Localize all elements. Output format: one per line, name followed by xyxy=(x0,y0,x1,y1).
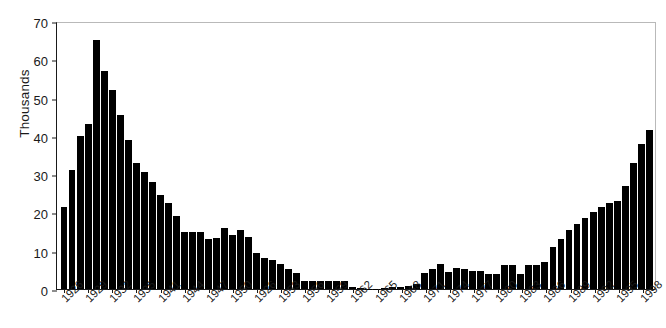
bar xyxy=(181,232,188,289)
bar xyxy=(598,207,605,289)
bar xyxy=(93,40,100,289)
y-tick-mark xyxy=(52,176,57,177)
bar-series xyxy=(57,23,655,289)
y-axis-title: Thousands xyxy=(17,24,32,184)
bar xyxy=(133,163,140,289)
y-tick-mark xyxy=(52,61,57,62)
bar xyxy=(277,264,284,289)
bar xyxy=(229,235,236,289)
bar xyxy=(85,124,92,289)
bar xyxy=(77,136,84,289)
y-tick-mark xyxy=(52,214,57,215)
plot-area: 010203040506070 xyxy=(56,22,656,290)
y-tick-mark xyxy=(52,23,57,24)
bar xyxy=(590,212,597,289)
bar xyxy=(141,172,148,289)
y-tick-mark xyxy=(52,291,57,292)
bar xyxy=(646,130,653,289)
bar xyxy=(61,207,68,289)
bar xyxy=(566,230,573,289)
bar xyxy=(622,186,629,289)
bar xyxy=(574,224,581,289)
bar xyxy=(630,163,637,289)
bar xyxy=(638,144,645,289)
bar xyxy=(606,203,613,289)
bar xyxy=(253,253,260,289)
bar xyxy=(165,203,172,289)
bar xyxy=(117,115,124,289)
bar xyxy=(109,90,116,289)
bar-chart: Thousands 010203040506070 19261929193219… xyxy=(0,0,666,328)
y-tick-mark xyxy=(52,252,57,253)
y-tick-mark xyxy=(52,137,57,138)
bar xyxy=(614,201,621,289)
y-tick-mark xyxy=(52,99,57,100)
bar xyxy=(125,140,132,289)
bar xyxy=(205,239,212,289)
bar xyxy=(69,170,76,289)
bar xyxy=(101,71,108,289)
bar xyxy=(157,195,164,289)
bar xyxy=(149,182,156,289)
